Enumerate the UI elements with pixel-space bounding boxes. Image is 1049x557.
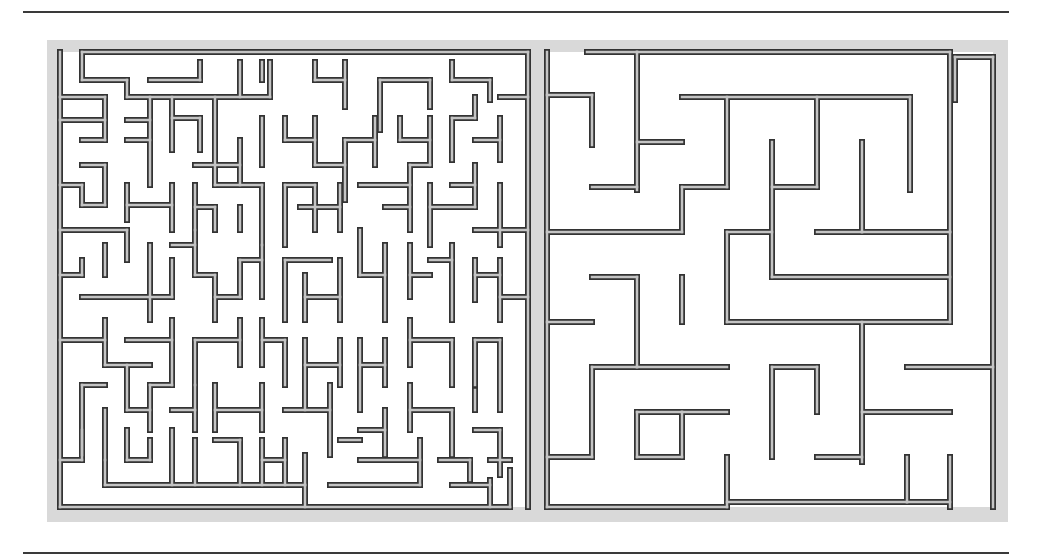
maze-figure bbox=[0, 0, 1049, 557]
